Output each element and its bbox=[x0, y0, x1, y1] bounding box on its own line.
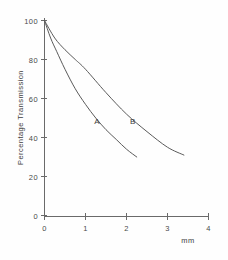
curve-a-path bbox=[45, 21, 137, 158]
curve-label-b: B bbox=[130, 117, 135, 126]
x-tick-label-3: 3 bbox=[165, 224, 170, 233]
x-tick-label-4: 4 bbox=[206, 224, 211, 233]
x-tick-label-2: 2 bbox=[124, 224, 129, 233]
y-tick-label-100: 100 bbox=[24, 17, 38, 26]
transmission-line-chart: 100 80 60 40 20 0 0 1 2 3 4 mm Percentag… bbox=[0, 0, 228, 260]
chart-figure: 100 80 60 40 20 0 0 1 2 3 4 mm Percentag… bbox=[0, 0, 228, 260]
y-tick-label-40: 40 bbox=[29, 134, 38, 143]
curve-label-a: A bbox=[94, 117, 100, 126]
y-axis-title: Percentage Transmission bbox=[16, 70, 25, 165]
x-tick-label-0: 0 bbox=[42, 224, 47, 233]
x-axis-unit-label: mm bbox=[181, 236, 194, 245]
y-tick-label-0: 0 bbox=[33, 212, 38, 221]
y-tick-label-20: 20 bbox=[29, 173, 38, 182]
curve-b-path bbox=[45, 21, 184, 156]
x-tick-label-1: 1 bbox=[83, 224, 88, 233]
y-tick-label-80: 80 bbox=[29, 56, 38, 65]
y-tick-label-60: 60 bbox=[29, 95, 38, 104]
